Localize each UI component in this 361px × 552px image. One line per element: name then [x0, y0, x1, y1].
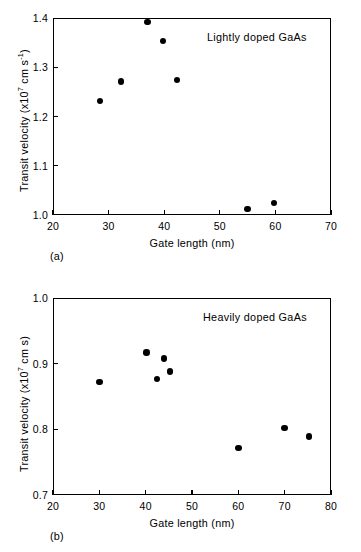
y-tick-a [53, 165, 58, 166]
data-point [281, 425, 287, 431]
x-tick-label-a: 40 [158, 221, 170, 232]
x-tick-label-a: 20 [47, 221, 59, 232]
figure-panel-a: 2030405060701.01.11.21.31.4 Lightly dope… [0, 0, 361, 276]
data-point [96, 379, 102, 385]
y-tick-label-b: 0.7 [21, 490, 48, 501]
y-tick-b [53, 429, 58, 430]
x-tick-label-b: 30 [93, 501, 105, 512]
x-tick-label-a: 60 [269, 221, 281, 232]
x-tick-label-a: 70 [325, 221, 337, 232]
x-tick-label-a: 50 [214, 221, 226, 232]
x-tick-label-b: 50 [186, 501, 198, 512]
x-tick-b [145, 490, 146, 495]
x-tick-a [164, 210, 165, 215]
data-point [143, 349, 149, 355]
x-tick-label-b: 20 [47, 501, 59, 512]
x-axis-title-b: Gate length (nm) [149, 517, 234, 529]
data-point [235, 445, 241, 451]
x-tick-a [52, 210, 53, 215]
y-axis-exponent: 7 [16, 367, 25, 371]
figure-page: 2030405060701.01.11.21.31.4 Lightly dope… [0, 0, 361, 552]
x-tick-b [99, 490, 100, 495]
x-tick-a [330, 210, 331, 215]
x-tick-b [330, 490, 331, 495]
plot-frame-b [53, 298, 331, 495]
x-tick-label-a: 30 [103, 221, 115, 232]
x-tick-a [219, 210, 220, 215]
y-tick-label-a: 1.4 [21, 13, 48, 24]
data-point [244, 206, 250, 212]
y-axis-title-a: Transit velocity (x107 cm s-1) [16, 49, 30, 192]
plot-area-b [54, 299, 330, 494]
y-tick-label-a: 1.0 [21, 210, 48, 221]
x-tick-label-b: 70 [279, 501, 291, 512]
x-tick-b [52, 490, 53, 495]
y-axis-exponent: 7 [16, 87, 25, 91]
plot-frame-a [53, 18, 331, 215]
panel-annotation-b: Heavily doped GaAs [203, 311, 307, 323]
y-tick-label-b: 1.0 [21, 293, 48, 304]
plot-area-a [54, 19, 330, 214]
panel-caption-b: (b) [50, 530, 64, 542]
x-tick-b [238, 490, 239, 495]
x-tick-b [284, 490, 285, 495]
x-tick-a [108, 210, 109, 215]
data-point [161, 355, 167, 361]
figure-panel-b: 203040506070800.70.80.91.0 Heavily doped… [0, 276, 361, 552]
y-tick-b [53, 363, 58, 364]
panel-annotation-a: Lightly doped GaAs [207, 31, 307, 43]
data-point [167, 368, 173, 374]
x-tick-a [275, 210, 276, 215]
y-tick-a [53, 116, 58, 117]
x-tick-label-b: 80 [325, 501, 337, 512]
y-axis-exponent-2: -1 [16, 53, 25, 60]
data-point [306, 433, 312, 439]
x-tick-label-b: 60 [232, 501, 244, 512]
x-tick-label-b: 40 [140, 501, 152, 512]
y-tick-a [53, 67, 58, 68]
panel-caption-a: (a) [50, 250, 64, 262]
data-point [118, 78, 124, 84]
y-axis-title-b: Transit velocity (x107 cm s) [16, 336, 30, 472]
data-point [144, 19, 150, 25]
x-axis-title-a: Gate length (nm) [149, 237, 234, 249]
x-tick-b [191, 490, 192, 495]
